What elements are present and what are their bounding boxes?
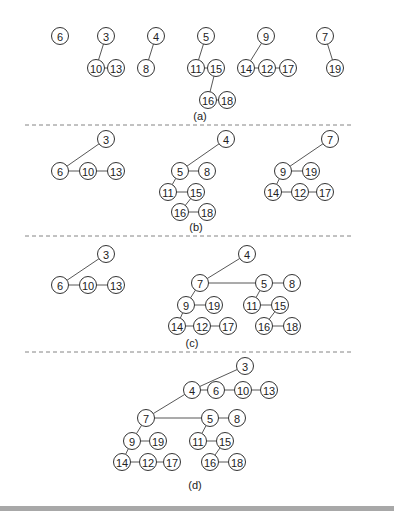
node-key: 15 [219,436,231,448]
node-9: 9 [178,297,195,314]
node-key: 17 [222,321,234,333]
node-key: 12 [294,187,306,199]
node-13: 13 [261,382,278,399]
node-key: 10 [82,166,94,178]
node-18: 18 [229,454,246,471]
node-key: 15 [190,187,202,199]
node-11: 11 [244,297,261,314]
node-7: 7 [192,275,209,292]
panel-separators [25,125,352,352]
node-15: 15 [208,60,225,77]
node-17: 17 [317,184,334,201]
node-key: 11 [162,187,173,199]
edge-5-11 [202,426,206,434]
node-4: 4 [148,28,165,45]
node-8: 8 [284,275,301,292]
node-18: 18 [219,92,236,109]
node-key: 9 [280,166,286,178]
node-key: 7 [322,31,328,43]
edge-15-16 [185,199,190,206]
node-9: 9 [258,28,275,45]
panel-d-caption: (d) [188,479,201,491]
node-key: 11 [246,300,257,312]
node-key: 10 [90,63,102,75]
node-key: 13 [263,385,275,397]
bottom-divider-bar [0,506,394,511]
node-5: 5 [172,163,189,180]
node-key: 4 [223,134,229,146]
edge-5-11 [172,178,176,184]
node-key: 9 [129,436,135,448]
node-15: 15 [217,433,234,450]
node-key: 19 [329,63,341,75]
node-9: 9 [124,433,141,450]
node-key: 6 [57,31,63,43]
edge-3-6 [67,144,99,166]
node-key: 18 [231,457,243,469]
edge-15-16 [215,448,220,455]
node-4: 4 [218,131,235,148]
node-key: 14 [240,63,252,75]
node-19: 19 [150,433,167,450]
node-6: 6 [52,277,69,294]
node-18: 18 [284,318,301,335]
edge-5-11 [256,290,260,297]
node-key: 6 [57,280,63,292]
edge-9-14 [126,449,129,455]
node-8: 8 [199,163,216,180]
node-key: 17 [282,63,294,75]
node-key: 17 [166,457,178,469]
node-7: 7 [322,131,339,148]
node-3: 3 [98,28,115,45]
node-key: 8 [234,413,240,425]
edge-15-16 [269,312,275,319]
edge-3-6 [67,259,99,280]
edge-7-9 [191,290,196,298]
edge-7-9 [136,425,141,433]
node-3: 3 [237,358,254,375]
node-14: 14 [114,454,131,471]
node-key: 5 [203,31,209,43]
edge-9-14 [180,313,182,318]
binomial-heap-figure: 631013485111516189141217719 (a) 36101345… [0,0,394,518]
panel-b-caption: (b) [189,221,202,233]
node-12: 12 [292,184,309,201]
edge-7-19 [328,44,333,60]
node-key: 13 [110,280,122,292]
node-key: 9 [263,31,269,43]
edge-9-14 [251,43,262,61]
node-key: 18 [286,321,298,333]
edge-9-14 [277,179,280,185]
node-key: 11 [192,436,203,448]
node-17: 17 [280,60,297,77]
node-5: 5 [202,410,219,427]
node-key: 8 [289,278,295,290]
node-key: 13 [110,166,122,178]
node-key: 12 [261,63,273,75]
node-16: 16 [256,318,273,335]
node-key: 18 [221,95,233,107]
node-key: 3 [103,31,109,43]
node-key: 3 [103,134,109,146]
node-key: 14 [171,321,183,333]
edge-15-16 [210,76,214,92]
node-key: 5 [207,413,213,425]
node-14: 14 [265,184,282,201]
node-key: 11 [190,63,201,75]
node-key: 18 [201,207,213,219]
node-17: 17 [164,454,181,471]
node-key: 16 [202,95,214,107]
node-key: 19 [305,166,317,178]
node-key: 15 [274,300,286,312]
node-key: 4 [189,385,195,397]
node-13: 13 [108,163,125,180]
node-key: 10 [237,385,249,397]
node-9: 9 [275,163,292,180]
edge-7-9 [290,144,323,166]
node-5: 5 [198,28,215,45]
node-10: 10 [80,277,97,294]
node-key: 19 [152,436,164,448]
node-10: 10 [235,382,252,399]
node-key: 7 [327,134,333,146]
panel-a-caption: (a) [193,110,206,122]
